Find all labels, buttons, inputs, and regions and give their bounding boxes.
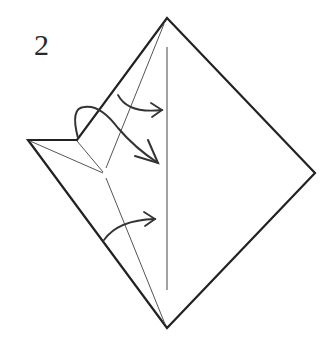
middle-wrap-arrow: [75, 107, 158, 163]
upper-fold-arrow: [118, 95, 162, 117]
origami-diagram: [0, 0, 336, 340]
paper-outline: [28, 18, 315, 328]
diagonal-crease-lower: [106, 178, 165, 324]
